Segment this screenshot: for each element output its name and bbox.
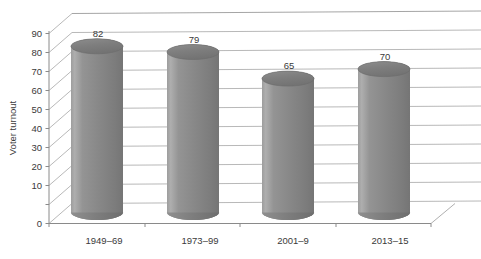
y-tick-label: 40 bbox=[31, 123, 42, 134]
bar-value-label: 70 bbox=[380, 51, 391, 62]
y-tick-label: 10 bbox=[31, 180, 42, 191]
bar-cylinder bbox=[262, 71, 314, 220]
y-tick-label: 90 bbox=[31, 28, 42, 39]
y-tick-label: 60 bbox=[31, 85, 42, 96]
y-axis-title: Voter turnout bbox=[7, 100, 18, 155]
bar-value-label: 65 bbox=[284, 60, 295, 71]
y-tick-label: 80 bbox=[31, 47, 42, 58]
bar-cylinder bbox=[71, 39, 123, 220]
chart-container: 90 80 70 60 50 40 30 20 10 0 Voter turno… bbox=[0, 0, 481, 259]
y-tick-label: 50 bbox=[31, 104, 42, 115]
y-tick-label: 30 bbox=[31, 142, 42, 153]
y-tick-label: 0 bbox=[37, 218, 42, 229]
bar-value-label: 79 bbox=[189, 34, 200, 45]
voter-turnout-3d-cylinder-chart: 90 80 70 60 50 40 30 20 10 0 Voter turno… bbox=[0, 0, 481, 259]
x-tick-label: 2013–15 bbox=[372, 235, 409, 246]
bar-cylinder bbox=[358, 62, 410, 220]
x-tick-label: 2001–9 bbox=[277, 235, 309, 246]
y-tick-label: 20 bbox=[31, 161, 42, 172]
bar-cylinder bbox=[167, 45, 219, 221]
y-tick-label: 70 bbox=[31, 66, 42, 77]
x-tick-label: 1949–69 bbox=[86, 235, 123, 246]
bar-value-label: 82 bbox=[93, 28, 104, 39]
x-tick-label: 1973–99 bbox=[182, 235, 219, 246]
